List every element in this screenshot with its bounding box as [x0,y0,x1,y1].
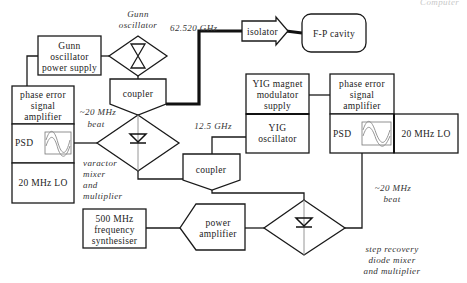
freq-62-label: 62.520 GHz [170,23,218,33]
yig-osc-text-1: YIG [269,123,287,133]
isolator-text: isolator [247,27,278,37]
beat-right-1: ~20 MHz [375,183,412,193]
power-amp-text-1: power [205,218,231,228]
line-ps-amp [27,56,38,86]
synth-text-1: 500 MHz [95,214,133,224]
varactor-text-2: mixer [83,169,106,179]
right-amp-text-1: phase error [339,79,385,89]
gunn-ps-text-3: power supply [42,63,97,73]
srd-text-3: and multiplier [364,266,421,276]
phase-lock-block-diagram: Computer Gunn oscillator 62.520 GHz Gunn… [0,0,467,283]
srd-text-1: step recovery [365,244,418,254]
left-amp-text-1: phase error [20,90,66,100]
varactor-text-4: multiplier [83,191,123,201]
right-amp-text-3: amplifier [343,101,381,111]
yig-osc-text-2: oscillator [258,134,297,144]
gunn-ps-text-1: Gunn [58,41,80,51]
right-lo-text: 20 MHz LO [401,129,450,139]
synth-text-2: frequency [94,225,135,235]
gunn-oscillator-label-2: oscillator [119,20,158,30]
freq-12-label: 12.5 GHz [194,121,232,131]
left-amp-text-3: amplifier [24,112,62,122]
fp-cavity-text: F-P cavity [313,29,355,39]
beat-right-2: beat [383,194,400,204]
varactor-text-3: and [83,180,98,190]
varactor-text-1: varactor [83,158,117,168]
left-psd-text: PSD [15,138,33,148]
beat-left-2: beat [87,119,104,129]
power-amp-text-2: amplifier [199,229,237,239]
gunn-ps-text-2: oscillator [50,52,89,62]
line-coupler-yig [212,137,246,154]
corner-label: Computer [420,0,459,7]
beat-left-1: ~20 MHz [80,107,117,117]
left-amp-text-2: signal [31,101,56,111]
line-varactor-coupler [138,171,183,179]
waveguide-to-isolator [166,31,242,104]
coupler-middle-text: coupler [196,165,227,175]
line-coupler-srd [212,190,304,200]
right-amp-text-2: signal [350,90,375,100]
yig-supply-text-3: supply [264,101,291,111]
right-psd-text: PSD [333,129,351,139]
coupler-top-text: coupler [123,89,154,99]
left-lo-text: 20 MHz LO [18,178,67,188]
synth-text-3: synthesiser [92,236,138,246]
yig-supply-text-1: YIG magnet [252,79,302,89]
srd-text-2: diode mixer [368,255,415,265]
yig-supply-text-2: modulator [257,90,299,100]
gunn-oscillator-label-1: Gunn [127,9,149,19]
line-psd-srd [345,153,362,228]
